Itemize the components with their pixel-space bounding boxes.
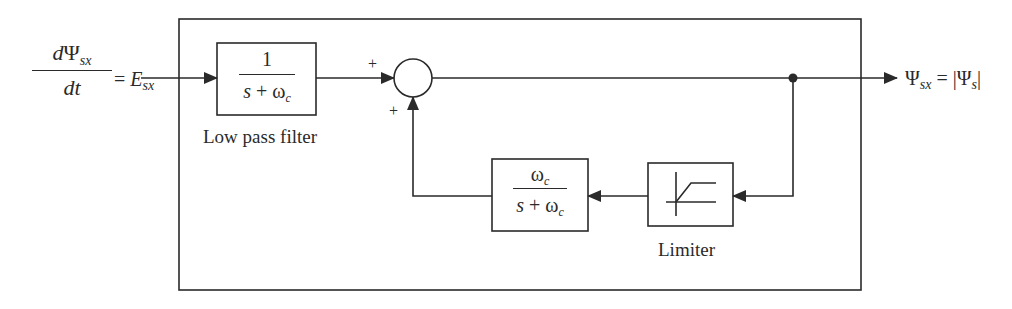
emf-symbol: E: [130, 68, 142, 90]
saturation-icon: [666, 172, 716, 216]
psi-subscript: sx: [80, 53, 92, 68]
output-expression: Ψsx = |Ψs|: [905, 68, 981, 88]
fb-num-omega-sub: c: [544, 174, 549, 188]
fb-s: s: [516, 194, 524, 216]
output-equals: =: [936, 67, 947, 89]
derivative-denominator: dt: [32, 77, 112, 99]
low-pass-filter-label: Low pass filter: [203, 127, 317, 146]
lpf-numerator: 1: [227, 49, 307, 69]
equals-sign: =: [114, 68, 125, 90]
summing-junction: [394, 59, 432, 97]
fb-num-omega: ω: [531, 163, 544, 185]
output-psi-s: Ψ: [957, 67, 972, 89]
input-equals-e: = Esx: [114, 69, 154, 89]
block-diagram-lines: [0, 0, 1012, 309]
branch-node: [789, 74, 798, 83]
lpf-s: s: [243, 80, 251, 102]
sum-sign-bottom: +: [389, 103, 398, 119]
output-psi: Ψ: [905, 67, 920, 89]
limiter-box: [648, 163, 733, 226]
output-psi-s-sub: s: [972, 77, 977, 92]
lpf-omega-sub: c: [285, 91, 290, 105]
psi-symbol: Ψ: [64, 40, 80, 65]
fb-plus: +: [529, 194, 540, 216]
input-derivative: dΨsx dt: [32, 42, 112, 99]
lpf-omega: ω: [272, 80, 285, 102]
limiter-label: Limiter: [658, 240, 715, 259]
filter-to-sum-arrow: [413, 97, 492, 196]
emf-subscript: sx: [143, 78, 155, 93]
output-psi-sub: sx: [920, 77, 932, 92]
feedback-to-limiter-arrow: [733, 78, 793, 196]
low-pass-filter-tf: 1 s + ωc: [227, 49, 307, 101]
fb-omega: ω: [545, 194, 558, 216]
feedback-filter-tf: ωc s + ωc: [500, 164, 580, 215]
abs-close: |: [977, 67, 981, 89]
lpf-plus: +: [256, 80, 267, 102]
sum-sign-top: +: [368, 56, 377, 72]
fb-omega-sub: c: [558, 205, 563, 219]
derivative-d: d: [53, 40, 64, 65]
